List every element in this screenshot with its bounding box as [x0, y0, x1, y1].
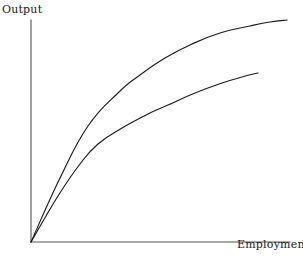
- y-axis-label: Output: [2, 4, 42, 15]
- x-axis-label: Employment: [237, 239, 303, 250]
- figure-root: Output Employment: [0, 0, 303, 260]
- curves-group: [31, 20, 287, 242]
- lower-production-curve: [31, 73, 258, 242]
- chart-canvas: [0, 0, 303, 260]
- upper-production-curve: [31, 20, 287, 242]
- axes-group: [31, 20, 290, 242]
